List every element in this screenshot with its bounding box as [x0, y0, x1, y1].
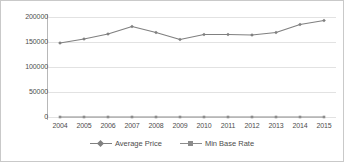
data-point-marker [178, 38, 182, 42]
x-tick-label: 2006 [96, 121, 120, 133]
x-tick-label: 2013 [264, 121, 288, 133]
data-point-marker [322, 19, 326, 23]
y-tick-label: 100000 [0, 63, 48, 71]
data-point-marker [83, 116, 86, 119]
chart-legend: Average PriceMin Base Rate [1, 139, 343, 148]
data-point-marker [107, 116, 110, 119]
data-point-marker [250, 33, 254, 37]
y-tick-label: 0 [0, 113, 48, 121]
data-point-marker [299, 116, 302, 119]
y-tick-label: 150000 [0, 38, 48, 46]
legend-label: Average Price [115, 139, 162, 148]
series-layer [48, 17, 336, 117]
data-point-marker [131, 116, 134, 119]
data-point-marker [179, 116, 182, 119]
data-point-marker [274, 31, 278, 35]
legend-item[interactable]: Min Base Rate [180, 139, 254, 148]
legend-item[interactable]: Average Price [90, 139, 162, 148]
x-tick-label: 2004 [48, 121, 72, 133]
data-point-marker [275, 116, 278, 119]
data-point-marker [82, 37, 86, 41]
data-point-marker [251, 116, 254, 119]
y-tick-label: 200000 [0, 13, 48, 21]
x-tick-label: 2011 [216, 121, 240, 133]
y-tick-label: 50000 [0, 88, 48, 96]
data-point-marker [58, 41, 62, 45]
x-tick-label: 2009 [168, 121, 192, 133]
x-tick-label: 2008 [144, 121, 168, 133]
data-point-marker [130, 25, 134, 29]
data-point-marker [106, 32, 110, 36]
x-tick-label: 2012 [240, 121, 264, 133]
data-point-marker [227, 116, 230, 119]
chart-container: 200000 150000 100000 50000 0 20042005200… [0, 0, 344, 162]
data-point-marker [59, 116, 62, 119]
plot-area [48, 17, 336, 117]
x-tick-label: 2010 [192, 121, 216, 133]
x-tick-label: 2015 [312, 121, 336, 133]
data-point-marker [155, 116, 158, 119]
data-point-marker [298, 23, 302, 27]
data-point-marker [226, 33, 230, 37]
data-point-marker [323, 116, 326, 119]
series-line [60, 21, 324, 44]
data-point-marker [203, 116, 206, 119]
legend-swatch-icon [180, 140, 202, 147]
x-tick-label: 2014 [288, 121, 312, 133]
data-point-marker [202, 33, 206, 37]
data-point-marker [154, 31, 158, 35]
x-axis-tick-labels: 2004200520062007200820092010201120122013… [48, 121, 336, 133]
x-tick-label: 2005 [72, 121, 96, 133]
legend-label: Min Base Rate [205, 139, 254, 148]
legend-swatch-icon [90, 140, 112, 147]
x-tick-label: 2007 [120, 121, 144, 133]
